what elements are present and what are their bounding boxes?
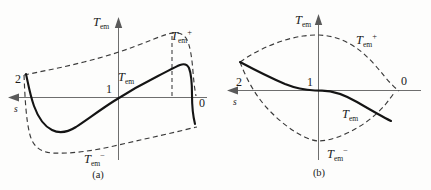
panel-a-tick-2: 2 xyxy=(15,72,21,86)
panel-b-lower-envelope-label: Tem− xyxy=(327,146,348,163)
panel-a-main-curve-label: Tem xyxy=(118,70,134,86)
panel-a: Tem Tem+ Tem Tem− 2 1 0 s (a) xyxy=(0,0,215,190)
panel-b-upper-envelope xyxy=(240,35,399,91)
panel-a-y-axis-label: Tem xyxy=(93,15,109,31)
panel-b-y-axis-label: Tem xyxy=(295,13,311,29)
panel-a-tick-1: 1 xyxy=(106,82,112,96)
panel-a-caption: (a) xyxy=(92,169,104,181)
panel-a-lower-envelope-label: Tem− xyxy=(84,151,105,168)
panel-a-y-axis-arrow xyxy=(115,17,122,28)
panel-b-caption: (b) xyxy=(313,167,326,179)
panel-b-tick-1: 1 xyxy=(307,75,313,89)
figure-root: Tem Tem+ Tem Tem− 2 1 0 s (a) Tem Tem xyxy=(0,0,431,190)
panel-b-x-axis-label: s xyxy=(233,97,237,107)
panel-a-upper-envelope-label: Tem+ xyxy=(171,28,192,45)
panel-b-main-curve-label: Tem xyxy=(342,107,358,123)
panel-b-tick-2: 2 xyxy=(236,75,242,89)
panel-a-x-axis-label: s xyxy=(14,104,18,114)
panel-b-y-axis-arrow xyxy=(315,14,322,25)
panel-b-tick-0: 0 xyxy=(401,74,407,88)
panel-b: Tem Tem+ Tem Tem− 2 1 0 s (b) xyxy=(215,0,431,190)
panel-a-tick-0: 0 xyxy=(199,96,205,110)
panel-b-main-curve xyxy=(240,62,391,121)
panel-a-x-axis-arrow xyxy=(8,94,19,102)
panel-a-main-curve xyxy=(26,64,195,132)
panel-b-upper-envelope-label: Tem+ xyxy=(356,32,377,49)
